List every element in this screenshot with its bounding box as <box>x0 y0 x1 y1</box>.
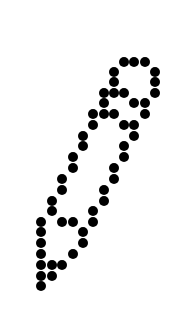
pencil-dot <box>140 98 150 108</box>
pencil-dot <box>36 249 46 259</box>
pencil-dot <box>68 249 78 259</box>
pencil-dot <box>150 88 160 98</box>
pencil-dot <box>78 238 88 248</box>
pencil-dot <box>36 217 46 227</box>
pencil-dot <box>36 271 46 281</box>
pencil-dot <box>68 163 78 173</box>
pencil-icon <box>0 0 184 334</box>
pencil-dot <box>99 98 109 108</box>
pencil-dot <box>150 77 160 87</box>
pencil-dot <box>119 141 129 151</box>
pencil-dot <box>57 174 67 184</box>
pencil-dot <box>47 271 57 281</box>
pencil-dot <box>140 57 150 67</box>
pencil-dot <box>36 281 46 291</box>
pencil-dot <box>68 152 78 162</box>
pencil-dot <box>36 260 46 270</box>
pencil-dot <box>109 109 119 119</box>
pencil-dot <box>119 152 129 162</box>
pencil-dot <box>36 227 46 237</box>
pencil-dot <box>88 109 98 119</box>
pencil-dot <box>47 260 57 270</box>
pencil-dot <box>88 206 98 216</box>
pencil-dot <box>129 120 139 130</box>
pencil-dot <box>57 185 67 195</box>
pencil-dot <box>99 185 109 195</box>
pencil-dot <box>88 217 98 227</box>
pencil-dot <box>119 88 129 98</box>
pencil-dot <box>129 98 139 108</box>
pencil-dot <box>150 67 160 77</box>
pencil-dots <box>36 57 160 291</box>
pencil-dot <box>78 141 88 151</box>
pencil-dot <box>47 196 57 206</box>
pencil-dot <box>109 77 119 87</box>
pencil-dot <box>109 163 119 173</box>
pencil-dot <box>129 57 139 67</box>
pencil-dot <box>109 88 119 98</box>
pencil-dot <box>140 109 150 119</box>
pencil-dot <box>99 88 109 98</box>
pencil-dot <box>57 217 67 227</box>
pencil-dot <box>99 109 109 119</box>
pencil-dot <box>129 131 139 141</box>
pencil-dot <box>119 120 129 130</box>
pencil-dot <box>99 196 109 206</box>
pencil-dot <box>78 227 88 237</box>
pencil-dot <box>78 131 88 141</box>
pencil-dot <box>109 174 119 184</box>
pencil-dot <box>119 57 129 67</box>
pencil-dot <box>109 67 119 77</box>
pencil-dot <box>47 206 57 216</box>
pencil-dot <box>36 238 46 248</box>
pencil-dot <box>88 120 98 130</box>
pencil-dot <box>68 217 78 227</box>
pencil-dot <box>57 260 67 270</box>
